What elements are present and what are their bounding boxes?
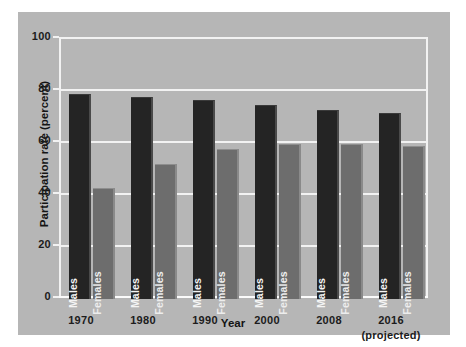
- bar-label-females: Females: [401, 271, 413, 314]
- bar-males-1990[interactable]: Males: [193, 100, 215, 299]
- bar-females-1970[interactable]: Females: [93, 188, 115, 299]
- x-axis-title: Year: [0, 317, 466, 329]
- bar-group-1990: Males Females: [187, 37, 247, 299]
- bar-females-2000[interactable]: Females: [279, 144, 301, 299]
- bar-group-1970: Males Females: [63, 37, 123, 299]
- bar-males-2008[interactable]: Males: [317, 110, 339, 299]
- bar-males-1980[interactable]: Males: [131, 97, 153, 299]
- bar-label-females: Females: [91, 271, 103, 314]
- bar-females-1990[interactable]: Females: [217, 149, 239, 299]
- bar-group-2016: Males Females: [373, 37, 433, 299]
- bar-label-females: Females: [153, 271, 165, 314]
- y-tick-label-20: 20: [25, 239, 51, 249]
- y-tick-label-100: 100: [25, 31, 51, 41]
- bar-females-2008[interactable]: Females: [341, 144, 363, 299]
- bar-males-2000[interactable]: Males: [255, 105, 277, 299]
- y-axis-title: Participation rate (percent): [38, 0, 52, 24]
- bar-label-males: Males: [253, 278, 265, 308]
- bar-males-2016[interactable]: Males: [379, 113, 401, 299]
- bar-label-males: Males: [129, 278, 141, 308]
- x-tick-sublabel-2016: (projected): [346, 329, 436, 341]
- bar-males-1970[interactable]: Males: [69, 94, 91, 299]
- chart-panel: Participation rate (percent) 100 80 60 4…: [18, 12, 450, 335]
- y-tick-label-40: 40: [25, 187, 51, 197]
- y-tick-label-0: 0: [25, 291, 51, 301]
- chart-figure: Participation rate (percent) 100 80 60 4…: [0, 0, 466, 347]
- bar-group-1980: Males Females: [125, 37, 185, 299]
- bar-label-males: Males: [67, 278, 79, 308]
- bar-label-males: Males: [377, 278, 389, 308]
- bar-label-females: Females: [339, 271, 351, 314]
- bar-series-container: Males Females Males Females Males: [59, 37, 428, 299]
- bar-females-2016[interactable]: Females: [403, 146, 425, 299]
- bar-group-2000: Males Females: [249, 37, 309, 299]
- bar-females-1980[interactable]: Females: [155, 164, 177, 299]
- bar-group-2008: Males Females: [311, 37, 371, 299]
- y-tick-label-80: 80: [25, 83, 51, 93]
- bar-label-females: Females: [215, 271, 227, 314]
- bar-label-females: Females: [277, 271, 289, 314]
- y-tick-label-60: 60: [25, 135, 51, 145]
- bar-label-males: Males: [315, 278, 327, 308]
- bar-label-males: Males: [191, 278, 203, 308]
